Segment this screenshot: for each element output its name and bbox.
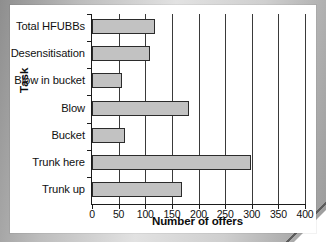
plot-area: 050100150200250300350400 Total HFUBBsDes…	[91, 14, 305, 205]
x-axis-title: Number of offers	[91, 215, 304, 227]
gridline-300	[252, 14, 253, 204]
y-tick	[87, 150, 92, 151]
category-label: Bucket	[51, 128, 85, 143]
y-tick	[87, 123, 92, 124]
bar	[92, 128, 125, 143]
y-tick	[87, 41, 92, 42]
y-tick	[87, 68, 92, 69]
gridline-400	[305, 14, 306, 204]
category-label: Total HFUBBs	[16, 19, 85, 34]
y-tick	[87, 177, 92, 178]
bar	[92, 46, 150, 61]
y-tick	[87, 14, 92, 15]
y-tick	[87, 95, 92, 96]
bar	[92, 73, 122, 88]
bar	[92, 155, 251, 170]
category-label: Desensitisation	[11, 46, 85, 61]
category-label: Trunk here	[32, 155, 85, 170]
category-label: Blow	[61, 101, 85, 116]
bar	[92, 101, 189, 116]
gridline-350	[278, 14, 279, 204]
bar	[92, 19, 155, 34]
bar	[92, 182, 182, 197]
category-label: Blow in bucket	[14, 73, 85, 88]
gridline-200	[199, 14, 200, 204]
gridline-250	[225, 14, 226, 204]
scanned-page-background: Task 050100150200250300350400 Total HFUB…	[0, 0, 326, 242]
chart-figure: Task 050100150200250300350400 Total HFUB…	[10, 5, 316, 233]
category-label: Trunk up	[42, 182, 85, 197]
